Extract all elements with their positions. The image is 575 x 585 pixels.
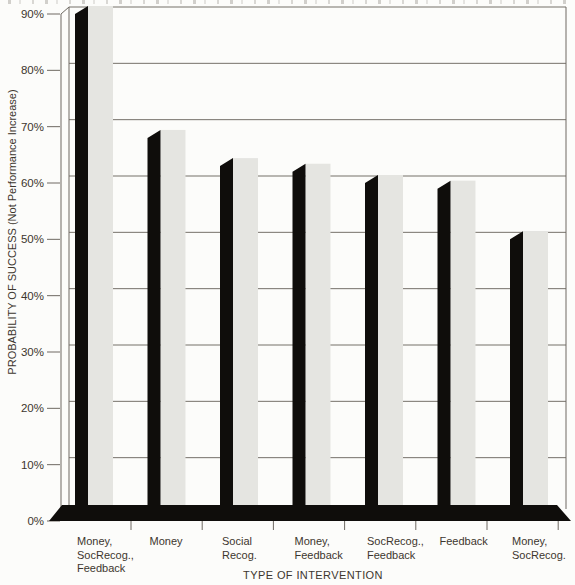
category-label-3: Money,Feedback <box>295 535 343 562</box>
bar-side-2 <box>233 158 258 514</box>
x-axis-title: TYPE OF INTERVENTION <box>243 569 383 581</box>
bar-front-0 <box>75 6 88 514</box>
category-label-2: SocialRecog. <box>222 535 257 562</box>
y-tick-label-30: 30% <box>21 346 44 358</box>
y-axis-title: PROBABILITY OF SUCCESS (Not Performance … <box>6 89 18 374</box>
bar-front-1 <box>148 130 161 514</box>
y-tick-label-60: 60% <box>21 177 44 189</box>
category-label-1: Money <box>150 535 183 549</box>
y-tick-label-80: 80% <box>21 64 44 76</box>
bar-front-5 <box>438 181 451 514</box>
bar-side-3 <box>306 164 331 514</box>
y-tick-label-90: 90% <box>21 8 44 20</box>
bar-side-0 <box>88 6 113 514</box>
bar-front-6 <box>510 231 523 514</box>
axis-3d-connector <box>61 7 69 14</box>
y-tick-label-0: 0% <box>27 515 44 527</box>
category-label-6: Money,SocRecog. <box>512 535 566 562</box>
bar-front-3 <box>293 164 306 514</box>
bar-chart: 0%10%20%30%40%50%60%70%80%90% Money,SocR… <box>0 0 575 585</box>
x-axis-base-bar <box>49 505 571 521</box>
bar-side-1 <box>161 130 186 514</box>
y-tick-label-50: 50% <box>21 233 44 245</box>
bar-front-2 <box>220 158 233 514</box>
category-label-0: Money,SocRecog.,Feedback <box>77 535 134 576</box>
chart-canvas: 0%10%20%30%40%50%60%70%80%90% <box>0 0 575 585</box>
y-tick-label-40: 40% <box>21 290 44 302</box>
category-label-5: Feedback <box>440 535 488 549</box>
category-label-4: SocRecog.,Feedback <box>367 535 424 562</box>
bar-side-5 <box>451 181 476 514</box>
bar-front-4 <box>365 175 378 514</box>
bar-side-4 <box>378 175 403 514</box>
y-tick-label-70: 70% <box>21 121 44 133</box>
y-tick-label-20: 20% <box>21 402 44 414</box>
bar-side-6 <box>523 231 548 514</box>
y-tick-label-10: 10% <box>21 459 44 471</box>
